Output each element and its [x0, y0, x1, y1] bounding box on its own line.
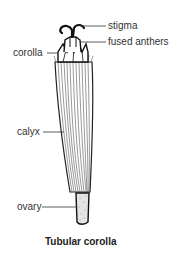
- calyx-label: calyx: [17, 127, 40, 137]
- ovary-label: ovary: [17, 202, 41, 212]
- diagram-caption: Tubular corolla: [45, 236, 117, 247]
- fused-anthers-label: fused anthers: [108, 37, 169, 47]
- fused-anthers-shape: [64, 37, 81, 52]
- corolla-label: corolla: [13, 48, 42, 58]
- calyx-shape: [54, 54, 93, 192]
- stigma-shape: [60, 25, 84, 37]
- stigma-label: stigma: [108, 21, 137, 31]
- ovary-shape: [76, 193, 89, 224]
